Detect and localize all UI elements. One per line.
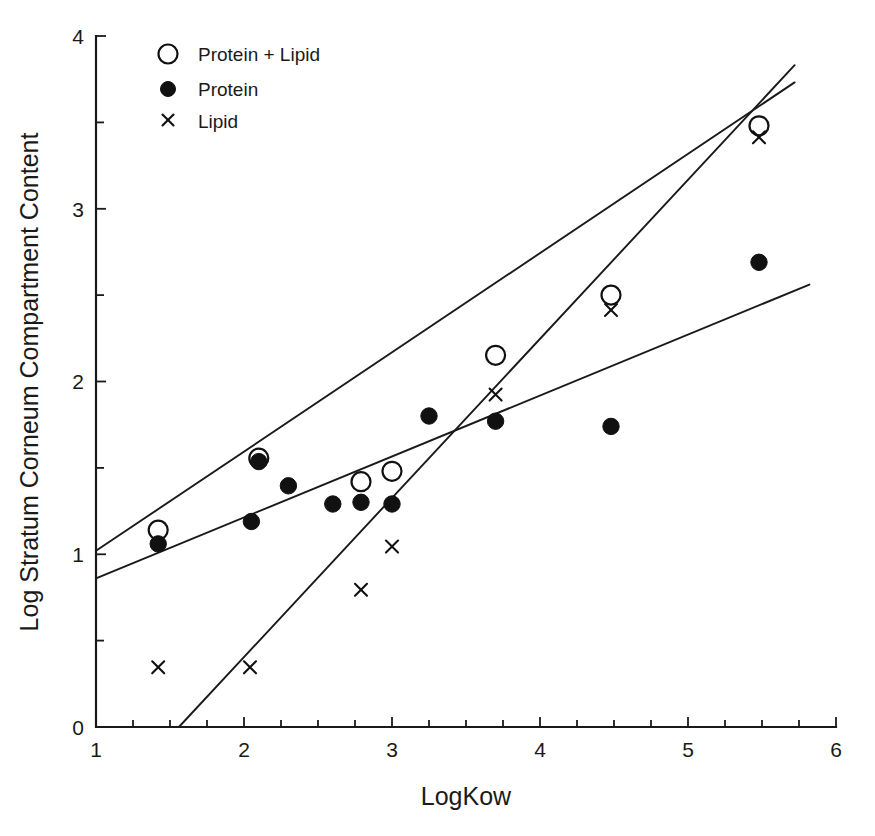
x-tick-label-4: 4 [534, 738, 546, 761]
y-tick-label-2: 2 [72, 370, 84, 393]
data-point-filled-circle [487, 413, 503, 429]
data-point-filled-circle [603, 418, 619, 434]
data-point-filled-circle [751, 254, 767, 270]
data-point-filled-circle [325, 496, 341, 512]
data-point-filled-circle [384, 496, 400, 512]
data-point-filled-circle [353, 494, 369, 510]
y-tick-label-4: 4 [72, 25, 84, 48]
y-tick-label-0: 0 [72, 716, 84, 739]
legend-label-protein-lipid: Protein + Lipid [198, 44, 320, 65]
legend-label-protein: Protein [198, 79, 258, 100]
chart-background [0, 0, 875, 836]
scatter-plot-figure: 0 1 2 3 4 1 2 3 4 5 6 LogKow Log Stratum… [0, 0, 875, 836]
x-tick-label-2: 2 [238, 738, 250, 761]
x-axis-title: LogKow [421, 782, 512, 810]
y-axis-title: Log Stratum Corneum Compartment Content [15, 133, 43, 632]
data-point-filled-circle [243, 513, 259, 529]
legend-label-lipid: Lipid [198, 111, 238, 132]
data-point-filled-circle [421, 408, 437, 424]
x-tick-label-3: 3 [386, 738, 398, 761]
legend-marker-filled-circle-icon [161, 82, 176, 97]
data-point-filled-circle [150, 536, 166, 552]
data-point-filled-circle [280, 478, 296, 494]
y-tick-label-1: 1 [72, 543, 84, 566]
chart-canvas: 0 1 2 3 4 1 2 3 4 5 6 LogKow Log Stratum… [0, 0, 875, 836]
x-tick-label-6: 6 [830, 738, 842, 761]
x-tick-label-5: 5 [682, 738, 694, 761]
y-tick-label-3: 3 [72, 198, 84, 221]
x-tick-label-1: 1 [90, 738, 102, 761]
data-point-filled-circle [251, 453, 267, 469]
